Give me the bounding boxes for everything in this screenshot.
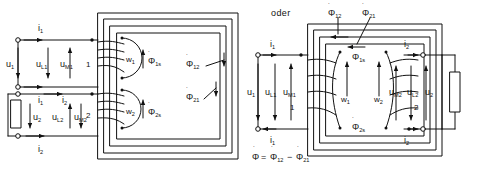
svg-text:Φ12: Φ12 (328, 8, 341, 19)
left-uM2-label: uM2 (74, 112, 87, 123)
right-uL2-label: uL2 (407, 87, 418, 98)
right-phi21-label: ˙ Φ21 (362, 3, 375, 19)
left-core-flux-loops (98, 13, 238, 159)
left-i1-top-label: i1 (38, 23, 43, 34)
left-i2-top-label: i2 (62, 95, 67, 106)
left-u1-label: u1 (6, 59, 14, 70)
right-primary-circuit (256, 53, 308, 132)
right-u2-label: u2 (425, 87, 433, 98)
right-phi2s-label: ˙ Φ2s (352, 117, 365, 133)
flux-equation: ˙ Φ = ˙ Φ12 − ˙ Φ21 (252, 146, 309, 163)
left-phi12-label: ˙ Φ12 (186, 54, 199, 70)
right-i2-bottom-label: i2 (404, 135, 409, 146)
left-phi2s-label: ˙ Φ2s (148, 102, 161, 118)
right-phi1s-label: ˙ Φ1s (352, 47, 365, 63)
left-phi21-label: ˙ Φ21 (186, 87, 199, 103)
right-u1-label: u1 (247, 87, 255, 98)
polarity-dot-secondary (90, 92, 93, 95)
right-load-resistor (450, 72, 460, 112)
left-terminal-1-label: 1 (86, 60, 91, 69)
left-uM1-label: uM1 (60, 59, 73, 70)
left-w1-label: w1 (125, 55, 135, 65)
svg-text:Φ1s: Φ1s (352, 52, 365, 63)
right-w1-label: w1 (340, 95, 350, 105)
right-terminal-1-label: 1 (290, 103, 295, 112)
right-i1-bottom-label: i1 (270, 135, 275, 146)
svg-text:Φ21: Φ21 (296, 152, 309, 163)
right-i1-top-label: i1 (270, 39, 275, 50)
left-phi1s-label: ˙ Φ1s (148, 51, 161, 67)
left-winding-w2 (98, 89, 143, 130)
svg-text:Φ21: Φ21 (362, 8, 375, 19)
right-w2-label: w2 (373, 95, 383, 105)
left-terminal-2-label: 2 (86, 111, 91, 120)
left-u2-label: u2 (33, 112, 41, 123)
transformer-flux-figure: i1 i1 u1 uL1 uM1 1 i2 i2 u2 uL2 uM2 2 w1… (0, 0, 477, 172)
svg-text:Φ21: Φ21 (186, 92, 199, 103)
svg-text:Φ2s: Φ2s (148, 107, 161, 118)
oder-caption: oder (271, 8, 291, 18)
svg-text:−: − (287, 152, 292, 162)
right-winding-w2 (379, 51, 418, 130)
polarity-dot-primary (90, 38, 93, 41)
svg-text:Φ12: Φ12 (186, 59, 199, 70)
figure-canvas: i1 i1 u1 uL1 uM1 1 i2 i2 u2 uL2 uM2 2 w1… (0, 0, 477, 172)
right-phi12-label: ˙ Φ12 (328, 3, 341, 19)
left-load-resistor (11, 100, 21, 128)
left-mutual-flux-indicators (204, 53, 224, 99)
right-uM1-label: uM1 (283, 87, 296, 98)
left-uL1-label: uL1 (36, 59, 47, 70)
left-winding-w1 (98, 37, 143, 80)
right-terminal-2-label: 2 (414, 103, 419, 112)
right-uM2-label: uM2 (389, 87, 402, 98)
svg-text:Φ: Φ (252, 152, 259, 162)
left-i2-bottom-label: i2 (38, 144, 43, 155)
svg-text:Φ2s: Φ2s (352, 122, 365, 133)
right-i2-top-label: i2 (404, 39, 409, 50)
left-w2-label: w2 (125, 107, 135, 117)
svg-text:=: = (261, 152, 266, 162)
left-uL2-label: uL2 (52, 112, 63, 123)
left-i1-bottom-label: i1 (38, 95, 43, 106)
right-mutual-flux-indicators (331, 18, 370, 47)
svg-text:Φ12: Φ12 (270, 152, 283, 163)
svg-text:Φ1s: Φ1s (148, 56, 161, 67)
right-polarity-dot-primary (299, 53, 302, 56)
right-core-flux-loops (308, 24, 442, 156)
